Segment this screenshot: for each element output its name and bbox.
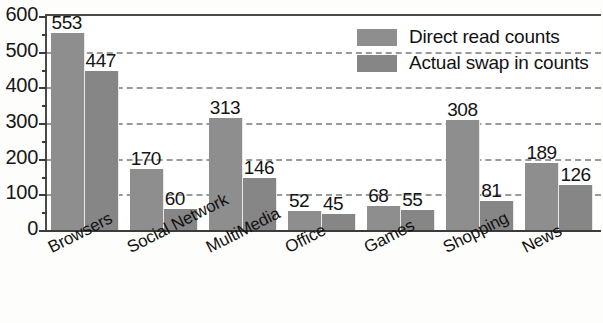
x-axis-category-labels: BrowsersSocial NetworkMultiMediaOfficeGa… — [45, 232, 601, 323]
bar-value-label: 146 — [244, 157, 274, 179]
bar-group: 5245 — [288, 16, 356, 230]
bar-value-label: 60 — [165, 188, 185, 210]
bar[interactable] — [85, 71, 119, 230]
bar-value-label: 81 — [481, 180, 501, 202]
bar[interactable] — [446, 120, 480, 230]
y-axis-major-tick — [39, 87, 47, 89]
bar[interactable] — [525, 163, 559, 230]
bar[interactable] — [322, 214, 356, 230]
bar-chart: 0100200300400500600 55344717060313146524… — [0, 0, 603, 323]
y-axis-major-tick — [39, 159, 47, 161]
bar-value-label: 308 — [447, 99, 477, 121]
legend-label: Direct read counts — [409, 26, 560, 48]
y-axis: 0100200300400500600 — [0, 0, 44, 232]
bar-value-label: 52 — [289, 190, 309, 212]
y-axis-tick-label: 600 — [6, 3, 38, 26]
legend-item[interactable]: Direct read counts — [357, 26, 589, 48]
y-axis-tick-label: 200 — [6, 145, 38, 168]
y-axis-tick-label: 300 — [6, 110, 38, 133]
y-axis-major-tick — [39, 194, 47, 196]
y-axis-major-tick — [39, 16, 47, 18]
bar[interactable] — [559, 185, 593, 230]
bar[interactable] — [51, 33, 85, 230]
bar-value-label: 447 — [86, 50, 116, 72]
y-axis-tick-label: 500 — [6, 38, 38, 61]
y-axis-major-tick — [39, 123, 47, 125]
bar-value-label: 189 — [526, 142, 556, 164]
bar-group: 553447 — [51, 16, 119, 230]
bar-value-label: 170 — [131, 148, 161, 170]
legend-swatch-direct-read — [357, 29, 397, 46]
legend: Direct read countsActual swap in counts — [357, 26, 589, 74]
legend-label: Actual swap in counts — [409, 52, 589, 74]
y-axis-tick-label: 400 — [6, 74, 38, 97]
bar-value-label: 68 — [368, 185, 388, 207]
bar-value-label: 126 — [560, 164, 590, 186]
y-axis-tick-label: 0 — [27, 217, 38, 240]
bar-group: 17060 — [130, 16, 198, 230]
y-axis-tick-label: 100 — [6, 181, 38, 204]
bar-value-label: 553 — [52, 12, 82, 34]
bar-value-label: 313 — [210, 97, 240, 119]
legend-swatch-actual-swap — [357, 55, 397, 72]
bar-value-label: 45 — [323, 193, 343, 215]
bar-value-label: 55 — [402, 189, 422, 211]
y-axis-major-tick — [39, 52, 47, 54]
legend-item[interactable]: Actual swap in counts — [357, 52, 589, 74]
